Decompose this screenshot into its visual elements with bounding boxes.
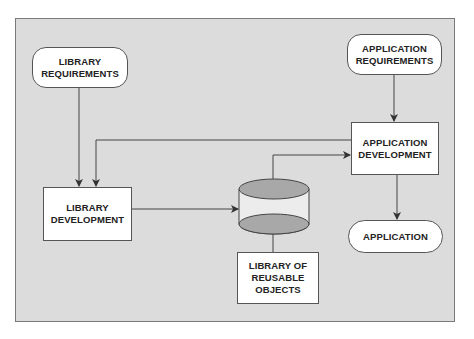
node-application-development: APPLICATION DEVELOPMENT — [351, 122, 439, 175]
node-label: LIBRARY REQUIREMENTS — [41, 56, 119, 80]
diagram-canvas: LIBRARY REQUIREMENTS APPLICATION REQUIRE… — [0, 0, 474, 339]
edge-appdev-to-libdev — [96, 140, 351, 186]
node-library-development: LIBRARY DEVELOPMENT — [43, 187, 132, 241]
node-label: APPLICATION DEVELOPMENT — [358, 137, 431, 161]
node-application: APPLICATION — [348, 220, 443, 253]
node-library-requirements: LIBRARY REQUIREMENTS — [32, 47, 128, 88]
node-application-requirements: APPLICATION REQUIREMENTS — [347, 34, 442, 75]
node-label: LIBRARY OF REUSABLE OBJECTS — [249, 260, 308, 296]
edge-store-to-appdev — [273, 155, 350, 179]
node-label: APPLICATION REQUIREMENTS — [356, 43, 434, 67]
node-library-of-reusable-objects: LIBRARY OF REUSABLE OBJECTS — [237, 252, 319, 304]
database-cylinder-icon — [239, 179, 309, 234]
node-label: APPLICATION — [363, 231, 428, 243]
node-label: LIBRARY DEVELOPMENT — [51, 202, 124, 226]
